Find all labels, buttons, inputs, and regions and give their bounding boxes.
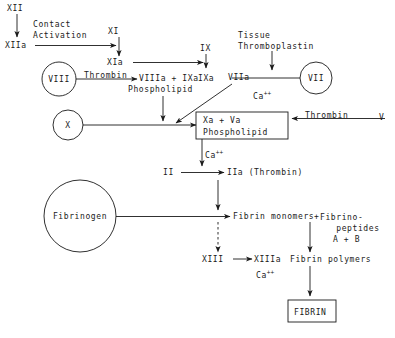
ca-text: Ca	[253, 92, 264, 101]
label-ii: II	[163, 168, 174, 178]
label-ca-prothrombin: Ca++	[205, 147, 223, 161]
label-phospholipid-1: Phospholipid	[128, 85, 193, 95]
label-xiii: XIII	[202, 255, 224, 265]
label-viii: VIII	[42, 75, 76, 84]
label-fibrin-monomers: Fibrin monomers	[233, 212, 314, 222]
label-phospholipid-2: Phospholipid	[203, 127, 268, 138]
label-thrombin-viii: Thrombin	[84, 71, 127, 81]
ca-superscript: ++	[267, 268, 274, 275]
label-xi: XI	[108, 27, 119, 37]
label-plus-sign: +	[314, 212, 319, 222]
label-a-plus-b: A + B	[333, 235, 360, 245]
label-xa-va: Xa + Va	[203, 115, 241, 126]
label-v: V	[379, 113, 384, 123]
ca-superscript: ++	[264, 89, 271, 96]
label-ca-xiii: Ca++	[256, 267, 274, 281]
coagulation-cascade-diagram: XII Contact Activation XIIa XI XIa IX IX…	[0, 0, 395, 338]
ca-superscript: ++	[216, 148, 223, 155]
label-tissue-thromboplastin: Tissue Thromboplastin	[238, 30, 314, 52]
label-thrombin-v: Thrombin	[305, 111, 348, 121]
label-ixa: IXa	[198, 74, 214, 84]
label-ix: IX	[200, 44, 211, 54]
diagram-vector-layer	[0, 0, 395, 338]
label-ca-viia: Ca++	[253, 88, 271, 102]
label-fibrin-polymers: Fibrin polymers	[290, 255, 371, 265]
label-iia-thrombin: IIa (Thrombin)	[227, 168, 303, 178]
ca-text: Ca	[205, 151, 216, 160]
label-vii: VII	[300, 74, 332, 83]
label-x: X	[56, 121, 80, 130]
label-fibrinogen: Fibrinogen	[44, 212, 116, 221]
label-viiia-ixa: VIIIa + IXa	[139, 74, 199, 84]
label-fibrin-box: FIBRIN	[294, 307, 327, 318]
label-fibrinopeptides: Fibrino- peptides	[320, 212, 380, 234]
label-xiiia: XIIIa	[254, 255, 281, 265]
label-xii: XII	[7, 4, 23, 14]
label-xiia: XIIa	[5, 41, 27, 51]
label-xia: XIa	[107, 58, 123, 68]
ca-text: Ca	[256, 271, 267, 280]
label-contact-activation: Contact Activation	[33, 19, 87, 41]
label-viia: VIIa	[228, 73, 250, 83]
